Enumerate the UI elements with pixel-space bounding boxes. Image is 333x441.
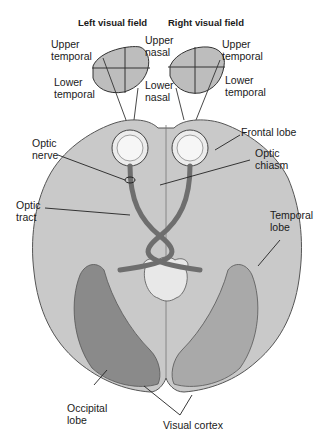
label-right-upper-temporal: Upper temporal bbox=[222, 39, 263, 62]
visual-pathway-diagram: Left visual field Right visual field Upp… bbox=[0, 0, 333, 441]
label-optic-chiasm: Optic chiasm bbox=[255, 148, 288, 171]
right-visual-field-oval bbox=[168, 47, 225, 94]
label-right-upper-nasal: Upper nasal bbox=[145, 35, 174, 58]
left-eye bbox=[112, 130, 148, 166]
left-visual-field-oval bbox=[92, 47, 150, 93]
label-visual-cortex: Visual cortex bbox=[163, 420, 223, 432]
right-visual-field-title: Right visual field bbox=[168, 17, 244, 28]
label-right-lower-nasal: Lower nasal bbox=[145, 80, 174, 103]
label-temporal-lobe: Temporal lobe bbox=[270, 210, 313, 233]
label-right-lower-temporal: Lower temporal bbox=[225, 75, 266, 98]
right-eye bbox=[172, 130, 208, 166]
label-left-lower-temporal: Lower temporal bbox=[54, 77, 95, 100]
label-occipital-lobe: Occipital lobe bbox=[67, 403, 107, 426]
label-optic-nerve: Optic nerve bbox=[32, 138, 58, 161]
label-optic-tract: Optic tract bbox=[16, 200, 41, 223]
left-visual-field-title: Left visual field bbox=[78, 17, 147, 28]
label-frontal-lobe: Frontal lobe bbox=[241, 127, 296, 139]
label-left-upper-temporal: Upper temporal bbox=[51, 39, 92, 62]
